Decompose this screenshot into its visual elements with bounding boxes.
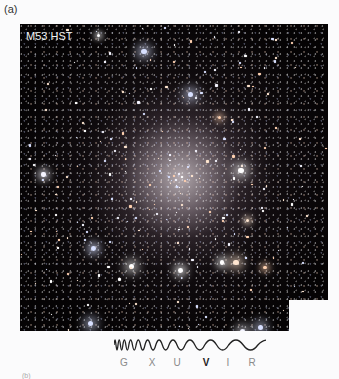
star xyxy=(84,130,85,131)
wavelength-wave-icon xyxy=(114,334,266,356)
star xyxy=(179,326,180,327)
star xyxy=(176,212,177,213)
star xyxy=(124,146,126,148)
star xyxy=(168,176,170,178)
cluster-image: M53 HST xyxy=(20,24,328,331)
star xyxy=(264,67,265,68)
star xyxy=(66,176,68,178)
band-label-i: I xyxy=(227,357,230,368)
star xyxy=(215,84,217,86)
star xyxy=(195,97,197,99)
star xyxy=(109,173,111,175)
star xyxy=(91,246,96,251)
star xyxy=(150,88,152,90)
star xyxy=(35,283,36,284)
star xyxy=(241,165,243,167)
star xyxy=(271,38,273,40)
star xyxy=(181,204,183,206)
star xyxy=(263,266,266,269)
star xyxy=(169,154,171,156)
star xyxy=(181,176,183,178)
star xyxy=(117,217,119,219)
star xyxy=(142,249,143,250)
star xyxy=(156,213,158,215)
band-labels: GXUVIR xyxy=(114,357,266,371)
star xyxy=(232,155,234,157)
star xyxy=(129,205,131,207)
star xyxy=(200,92,202,94)
star xyxy=(325,148,326,149)
star xyxy=(35,210,36,211)
star xyxy=(104,61,106,63)
star xyxy=(111,198,113,200)
star xyxy=(143,113,145,115)
star xyxy=(57,247,59,249)
star xyxy=(214,36,215,37)
star xyxy=(137,101,139,103)
star xyxy=(173,175,175,177)
panel-label-b: (b) xyxy=(22,372,31,379)
star xyxy=(214,69,216,71)
star xyxy=(58,239,60,241)
star xyxy=(154,204,155,205)
star xyxy=(256,116,258,118)
star xyxy=(86,231,88,233)
image-cutout xyxy=(289,300,328,331)
star xyxy=(171,180,172,181)
band-label-v: V xyxy=(203,357,210,368)
star xyxy=(240,329,245,331)
star xyxy=(84,239,86,241)
star xyxy=(178,268,183,273)
star xyxy=(88,321,93,326)
star xyxy=(233,177,235,179)
star xyxy=(47,83,49,85)
star xyxy=(187,166,189,168)
star xyxy=(82,224,84,226)
star xyxy=(183,97,184,98)
star xyxy=(215,238,216,239)
band-label-u: U xyxy=(173,357,180,368)
star xyxy=(302,262,304,264)
star xyxy=(138,230,139,231)
star xyxy=(246,236,248,238)
star xyxy=(246,219,249,222)
star xyxy=(267,93,269,95)
star xyxy=(33,164,35,166)
star xyxy=(239,62,241,64)
star xyxy=(98,274,100,276)
star xyxy=(29,144,31,146)
band-label-g: G xyxy=(120,357,128,368)
star xyxy=(45,109,47,111)
star xyxy=(158,158,159,159)
star xyxy=(141,49,146,54)
star xyxy=(222,217,224,219)
star xyxy=(190,40,192,42)
star xyxy=(196,305,198,307)
star xyxy=(109,52,111,54)
star xyxy=(240,149,241,150)
band-label-r: R xyxy=(248,357,255,368)
star xyxy=(283,310,284,311)
star xyxy=(125,171,126,172)
star xyxy=(107,266,109,268)
star xyxy=(291,203,293,205)
star xyxy=(118,278,120,280)
star xyxy=(275,127,276,128)
star xyxy=(258,73,260,75)
panel-label-a: (a) xyxy=(4,3,17,15)
star xyxy=(190,302,191,303)
star xyxy=(149,184,151,186)
star xyxy=(226,214,228,216)
star xyxy=(75,102,76,103)
star xyxy=(220,260,224,264)
star xyxy=(251,184,252,185)
star xyxy=(122,132,124,134)
star xyxy=(191,175,193,177)
star xyxy=(245,257,246,258)
star xyxy=(206,160,208,162)
star xyxy=(248,108,250,110)
star xyxy=(175,179,177,181)
star xyxy=(291,42,293,44)
star xyxy=(41,172,45,176)
image-title: M53 HST xyxy=(26,30,72,42)
